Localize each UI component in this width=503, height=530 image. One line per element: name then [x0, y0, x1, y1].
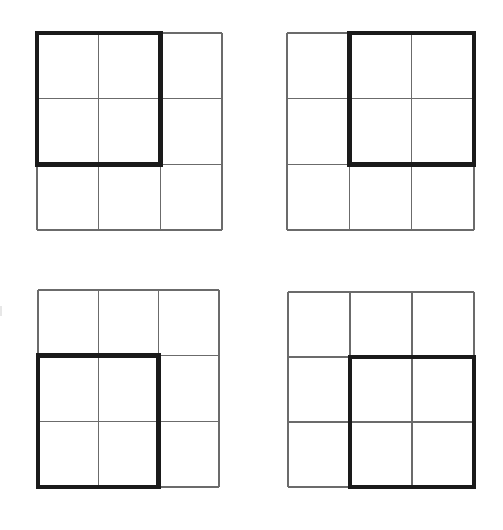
grids-figure-svg [0, 0, 503, 530]
left-edge-scan-artifact [0, 306, 2, 316]
figure-canvas [0, 0, 503, 530]
figure-background [0, 0, 503, 530]
